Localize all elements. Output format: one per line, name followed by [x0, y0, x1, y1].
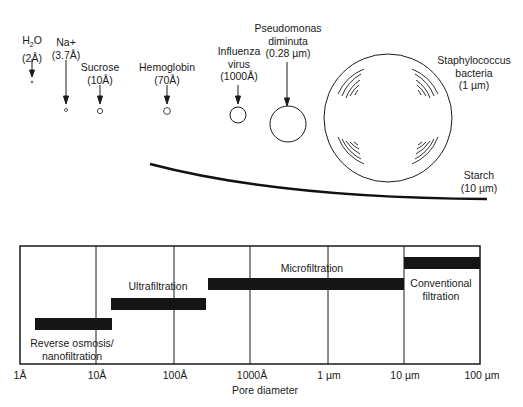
label-starch: Starch (10 µm): [461, 169, 497, 194]
molecule-hemoglobin: [164, 108, 171, 115]
tick-10um: 10 µm: [390, 369, 419, 381]
label-h2o: H2O(2Å): [22, 34, 42, 64]
arrow-sucrose: [98, 85, 103, 104]
tick-1000a: 1000Å: [237, 369, 267, 381]
label-na: Na+(3.7Å): [52, 36, 81, 61]
tick-100a: 100Å: [163, 369, 188, 381]
arrow-influenza: [236, 85, 241, 104]
bacteria-staphylococcus: [324, 54, 452, 182]
arrow-pseudomonas: [285, 62, 290, 106]
label-staphylococcus: Staphylococcus bacteria (1 µm): [437, 54, 511, 92]
label-reverse-osmosis: Reverse osmosis/ nanofiltration: [30, 337, 113, 362]
x-axis-label: Pore diameter: [232, 384, 298, 397]
label-hemoglobin: Hemoglobin(70Å): [139, 61, 195, 86]
arrow-na: [64, 60, 69, 104]
molecule-sucrose: [97, 108, 102, 113]
tick-1a: 1Å: [14, 369, 27, 381]
bacteria-pseudomonas: [270, 106, 306, 142]
tick-1um: 1 µm: [317, 369, 341, 381]
label-conventional-filtration: Conventional filtration: [410, 277, 471, 302]
bar-conventional: [404, 257, 480, 269]
label-pseudomonas: Pseudomonas diminuta (0.28 µm): [254, 22, 321, 60]
virus-influenza: [230, 107, 246, 123]
arrow-hemoglobin: [165, 85, 170, 104]
label-microfiltration: Microfiltration: [281, 262, 343, 275]
tick-10a: 10Å: [88, 369, 107, 381]
bar-ultrafiltration: [111, 298, 206, 310]
molecule-na: [65, 109, 68, 112]
molecule-h2o: [31, 81, 33, 83]
label-sucrose: Sucrose(10Å): [81, 61, 120, 86]
bar-reverse-osmosis: [35, 318, 112, 330]
label-ultrafiltration: Ultrafiltration: [129, 280, 188, 293]
starch-curve: [150, 164, 487, 199]
bar-microfiltration: [208, 278, 404, 290]
tick-100um: 100 µm: [464, 369, 499, 381]
